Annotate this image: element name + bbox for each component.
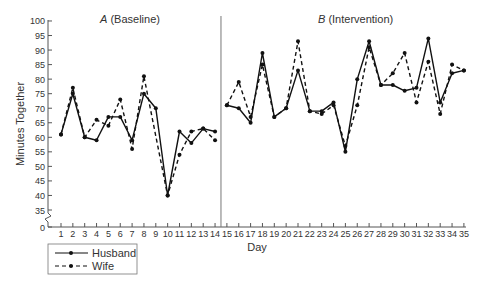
- y-tick-label: 35: [35, 206, 45, 216]
- data-point: [237, 80, 241, 84]
- x-tick-label: 2: [70, 229, 75, 239]
- x-axis: 1234567891011121314151617181920212223242…: [48, 223, 469, 239]
- x-tick-label: 20: [281, 229, 291, 239]
- data-point: [106, 124, 110, 128]
- y-tick-label: 70: [35, 104, 45, 114]
- x-tick-label: 30: [400, 229, 410, 239]
- y-tick-label: 50: [35, 162, 45, 172]
- data-point: [260, 51, 264, 55]
- data-point: [83, 135, 87, 139]
- data-point: [462, 68, 466, 72]
- data-point: [249, 115, 253, 119]
- data-point: [142, 74, 146, 78]
- data-point: [106, 115, 110, 119]
- x-tick-label: 21: [293, 229, 303, 239]
- data-point: [213, 129, 217, 133]
- y-tick-label: 40: [35, 191, 45, 201]
- legend: Husband Wife: [48, 244, 137, 274]
- x-tick-label: 10: [163, 229, 173, 239]
- data-point: [355, 77, 359, 81]
- data-point: [367, 39, 371, 43]
- y-tick-label: 90: [35, 46, 45, 56]
- x-tick-label: 15: [222, 229, 232, 239]
- data-point: [225, 103, 229, 107]
- data-point: [296, 39, 300, 43]
- y-tick-label: 55: [35, 147, 45, 157]
- data-point: [237, 106, 241, 110]
- data-point: [415, 100, 419, 104]
- data-point: [355, 103, 359, 107]
- data-point: [118, 97, 122, 101]
- y-tick-label: 60: [35, 133, 45, 143]
- legend-label-wife: Wife: [92, 260, 114, 272]
- x-tick-label: 19: [269, 229, 279, 239]
- data-series: [59, 36, 466, 197]
- x-tick-label: 5: [106, 229, 111, 239]
- x-tick-label: 31: [411, 229, 421, 239]
- data-point: [450, 63, 454, 67]
- x-tick-label: 33: [435, 229, 445, 239]
- x-tick-label: 22: [305, 229, 315, 239]
- x-tick-label: 1: [58, 229, 63, 239]
- x-tick-label: 35: [459, 229, 469, 239]
- x-tick-label: 34: [447, 229, 457, 239]
- data-point: [178, 129, 182, 133]
- data-point: [343, 144, 347, 148]
- x-tick-label: 27: [364, 229, 374, 239]
- data-point: [189, 129, 193, 133]
- x-tick-label: 14: [210, 229, 220, 239]
- x-tick-label: 24: [329, 229, 339, 239]
- y-tick-label: 95: [35, 31, 45, 41]
- x-tick-label: 7: [130, 229, 135, 239]
- x-tick-label: 29: [388, 229, 398, 239]
- data-point: [95, 118, 99, 122]
- phase-label: B (Intervention): [318, 13, 393, 25]
- y-axis-title: Minutes Together: [14, 82, 26, 167]
- data-point: [213, 138, 217, 142]
- data-point: [391, 83, 395, 87]
- y-tick-label: 45: [35, 176, 45, 186]
- x-tick-label: 32: [423, 229, 433, 239]
- x-tick-label: 16: [234, 229, 244, 239]
- y-tick-label: 65: [35, 118, 45, 128]
- data-point: [284, 106, 288, 110]
- data-point: [391, 71, 395, 75]
- x-tick-label: 25: [340, 229, 350, 239]
- x-tick-label: 28: [376, 229, 386, 239]
- x-tick-label: 8: [141, 229, 146, 239]
- y-tick-label: 75: [35, 89, 45, 99]
- data-point: [296, 68, 300, 72]
- data-point: [320, 112, 324, 116]
- x-tick-label: 17: [246, 229, 256, 239]
- data-point: [426, 60, 430, 64]
- x-tick-label: 11: [175, 229, 184, 239]
- data-point: [343, 150, 347, 154]
- data-point: [403, 51, 407, 55]
- x-tick-label: 6: [118, 229, 123, 239]
- x-tick-label: 18: [257, 229, 267, 239]
- data-point: [118, 115, 122, 119]
- data-point: [130, 147, 134, 151]
- data-point: [249, 121, 253, 125]
- data-point: [166, 193, 170, 197]
- data-point: [308, 109, 312, 113]
- x-tick-label: 13: [198, 229, 208, 239]
- data-point: [260, 63, 264, 67]
- x-tick-label: 3: [82, 229, 87, 239]
- y-axis: 035404550556065707580859095100: [30, 16, 52, 232]
- x-axis-title: Day: [247, 241, 267, 253]
- phase-label: A (Baseline): [99, 13, 160, 25]
- data-point: [154, 106, 158, 110]
- x-tick-label: 23: [317, 229, 327, 239]
- y-tick-label: 0: [40, 223, 45, 233]
- data-point: [142, 92, 146, 96]
- line-chart: 035404550556065707580859095100 123456789…: [0, 0, 483, 287]
- data-point: [332, 103, 336, 107]
- phase-divider: A (Baseline)B (Intervention): [99, 13, 393, 227]
- y-tick-label: 80: [35, 75, 45, 85]
- x-tick-label: 12: [186, 229, 196, 239]
- data-point: [189, 141, 193, 145]
- data-point: [438, 112, 442, 116]
- data-point: [403, 89, 407, 93]
- data-point: [201, 127, 205, 131]
